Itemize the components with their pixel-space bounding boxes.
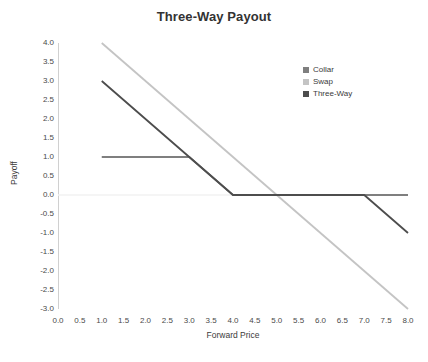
legend-swatch-icon xyxy=(303,67,309,73)
legend-label: Collar xyxy=(313,66,334,74)
x-axis-tick-label: 8.0 xyxy=(393,317,423,325)
legend-label: Swap xyxy=(313,78,333,86)
legend-item-swap[interactable]: Swap xyxy=(303,76,352,87)
legend-label: Three-Way xyxy=(313,90,352,98)
series-line-swap xyxy=(102,43,408,309)
legend-item-collar[interactable]: Collar xyxy=(303,64,352,75)
legend-swatch-icon xyxy=(303,79,309,85)
chart-legend: CollarSwapThree-Way xyxy=(303,64,352,100)
series-lines xyxy=(58,43,408,309)
y-axis-title: Payoff xyxy=(9,143,19,203)
x-axis-title: Forward Price xyxy=(58,330,408,340)
legend-swatch-icon xyxy=(303,91,309,97)
chart-container: Three-Way Payout 4.03.53.02.52.01.51.00.… xyxy=(0,0,428,362)
plot-area xyxy=(58,43,408,309)
legend-item-three-way[interactable]: Three-Way xyxy=(303,88,352,99)
